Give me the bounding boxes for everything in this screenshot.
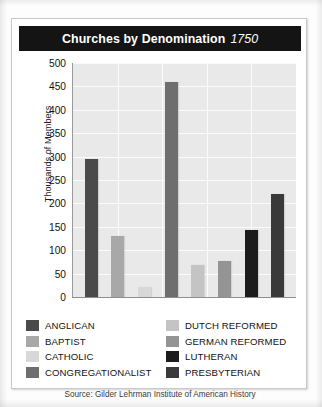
legend-swatch-icon — [166, 367, 179, 378]
legend-entry-baptist: BAPTIST — [26, 336, 166, 347]
y-axis-tick-labels: 500450400350300250200150100500 — [33, 57, 69, 297]
bar-dutch-reformed — [191, 265, 204, 297]
bar-slot — [131, 63, 158, 297]
bar-slot — [78, 63, 105, 297]
scanned-page: Churches by Denomination 1750 Thousands … — [0, 0, 322, 407]
legend-swatch-icon — [166, 351, 179, 362]
y-axis-tick-100: 100 — [49, 245, 66, 256]
bar-congregationalist — [165, 82, 178, 297]
legend-label: BAPTIST — [45, 336, 86, 347]
y-axis-tick-500: 500 — [49, 58, 66, 69]
bar-lutheran — [245, 230, 258, 297]
legend-label: DUTCH REFORMED — [185, 320, 278, 331]
legend-entry-lutheran: LUTHERAN — [166, 351, 296, 362]
legend-label: ANGLICAN — [45, 320, 95, 331]
bar-anglican — [85, 159, 98, 297]
y-axis-tick-300: 300 — [49, 151, 66, 162]
bar-catholic — [138, 287, 151, 297]
legend-entry-presbyterian: PRESBYTERIAN — [166, 367, 296, 378]
legend-entry-german-reformed: GERMAN REFORMED — [166, 336, 296, 347]
bar-slot — [264, 63, 291, 297]
legend-entry-anglican: ANGLICAN — [26, 320, 166, 331]
bar-slot — [105, 63, 132, 297]
legend-entry-dutch-reformed: DUTCH REFORMED — [166, 320, 296, 331]
y-axis-tick-0: 0 — [60, 292, 66, 303]
bar-german-reformed — [218, 261, 231, 298]
bar-slot — [211, 63, 238, 297]
y-axis-tick-200: 200 — [49, 198, 66, 209]
bar-slot — [185, 63, 212, 297]
chart-title-bar: Churches by Denomination 1750 — [19, 26, 301, 51]
source-credit: Source: Gilder Lehrman Institute of Amer… — [64, 390, 255, 399]
legend-swatch-icon — [166, 336, 179, 347]
legend-label: LUTHERAN — [185, 351, 238, 362]
bar-slot — [238, 63, 265, 297]
bar-presbyterian — [271, 194, 284, 297]
bar-series — [73, 63, 296, 297]
legend-label: CATHOLIC — [45, 351, 94, 362]
chart-title-year: 1750 — [230, 32, 258, 46]
legend-label: CONGREGATIONALIST — [45, 367, 152, 378]
bar-baptist — [111, 236, 124, 297]
legend-swatch-icon — [26, 336, 39, 347]
y-axis-tick-450: 450 — [49, 81, 66, 92]
y-axis-tick-250: 250 — [49, 175, 66, 186]
legend-entry-congregationalist: CONGREGATIONALIST — [26, 367, 166, 378]
chart-title: Churches by Denomination — [62, 32, 226, 46]
plot-area — [72, 63, 296, 298]
y-axis-tick-350: 350 — [49, 128, 66, 139]
y-axis-tick-150: 150 — [49, 221, 66, 232]
y-axis-tick-50: 50 — [55, 268, 66, 279]
legend-swatch-icon — [166, 320, 179, 331]
legend-label: PRESBYTERIAN — [185, 367, 260, 378]
bar-slot — [158, 63, 185, 297]
source-bar: Source: Gilder Lehrman Institute of Amer… — [19, 383, 301, 401]
figure-card: Churches by Denomination 1750 Thousands … — [11, 18, 307, 389]
legend-swatch-icon — [26, 367, 39, 378]
chart-legend: ANGLICANDUTCH REFORMEDBAPTISTGERMAN REFO… — [26, 318, 296, 380]
legend-label: GERMAN REFORMED — [185, 336, 286, 347]
legend-swatch-icon — [26, 351, 39, 362]
legend-entry-catholic: CATHOLIC — [26, 351, 166, 362]
y-axis-tick-400: 400 — [49, 104, 66, 115]
plot-region: Thousands of Members 5004504003503002502… — [19, 57, 301, 311]
legend-swatch-icon — [26, 320, 39, 331]
